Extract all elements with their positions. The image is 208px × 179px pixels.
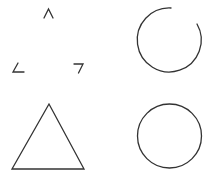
complete-triangle: [12, 104, 84, 169]
triangle-corner-bottom-left: [13, 63, 24, 72]
triangle-corner-bottom-right: [74, 64, 83, 73]
gestalt-closure-diagram: [0, 0, 208, 179]
complete-circle: [138, 104, 202, 168]
illusory-triangle: [13, 9, 83, 73]
incomplete-circle: [137, 8, 201, 72]
triangle-corner-top: [44, 9, 53, 18]
